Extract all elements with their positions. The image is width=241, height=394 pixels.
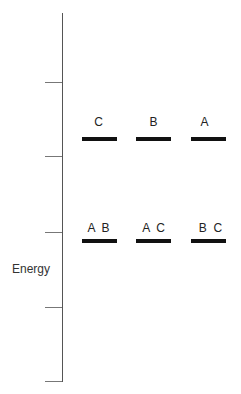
level-label-upper-3: A — [187, 115, 222, 129]
axis-tick — [45, 156, 62, 157]
level-label-lower-1: A B — [81, 221, 116, 235]
level-label-upper-2: B — [136, 115, 171, 129]
level-label-lower-2: A C — [136, 221, 171, 235]
energy-level-upper-1 — [82, 137, 117, 141]
axis-tick — [45, 307, 62, 308]
energy-axis-label: Energy — [12, 262, 50, 276]
energy-level-lower-3 — [191, 239, 226, 243]
level-label-upper-1: C — [81, 115, 116, 129]
level-label-lower-3: B C — [193, 221, 228, 235]
energy-level-lower-1 — [82, 239, 117, 243]
energy-level-lower-2 — [136, 239, 171, 243]
energy-level-upper-3 — [191, 137, 226, 141]
axis-tick — [45, 381, 62, 382]
energy-level-upper-2 — [136, 137, 171, 141]
axis-tick — [45, 82, 62, 83]
axis-tick — [45, 232, 62, 233]
energy-axis — [62, 13, 63, 382]
